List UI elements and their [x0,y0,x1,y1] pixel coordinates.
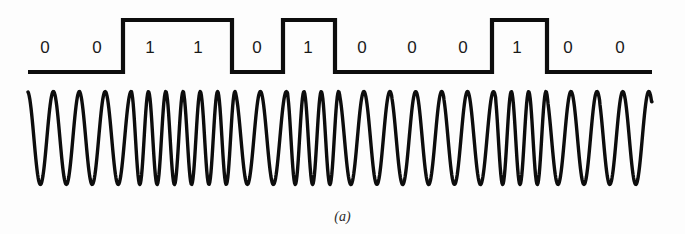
figure-caption: (a) [0,209,685,225]
bit-label: 0 [40,38,49,58]
bit-label: 0 [252,38,261,58]
figure-canvas [0,0,685,234]
bit-label: 1 [303,38,312,58]
binary-data-waveform [28,20,652,72]
bit-label: 0 [458,38,467,58]
bit-label: 0 [563,38,572,58]
bit-label: 1 [512,38,521,58]
bit-label: 0 [92,38,101,58]
fsk-modulated-carrier [28,92,652,185]
bit-label: 1 [145,38,154,58]
bit-label: 1 [193,38,202,58]
fsk-figure: 001101000100 (a) [0,0,685,234]
bit-label: 0 [407,38,416,58]
bit-label: 0 [615,38,624,58]
bit-label: 0 [357,38,366,58]
